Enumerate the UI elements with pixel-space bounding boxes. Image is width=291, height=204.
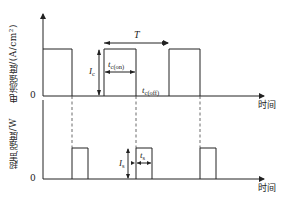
top-x-axis-label: 时间 (258, 101, 276, 110)
on-time-label: tc(on) (108, 60, 124, 71)
bottom-plot (43, 100, 264, 179)
period-label: T (134, 30, 140, 40)
current-pulse-1 (43, 49, 72, 96)
ultrasound-pulse-1 (72, 148, 88, 179)
pulse-timing-diagram (0, 0, 291, 204)
bottom-zero-label: 0 (30, 174, 36, 183)
ultrasound-amplitude-label: Is (119, 159, 125, 170)
bottom-y-axis-label: 超声强度/W (6, 118, 19, 169)
current-pulse-3 (169, 49, 200, 96)
top-zero-label: 0 (30, 91, 36, 100)
off-time-label: tc(off) (142, 86, 159, 97)
bottom-x-axis-label: 时间 (258, 184, 276, 193)
top-plot (43, 14, 264, 96)
current-amplitude-label: Ic (89, 67, 95, 78)
ultrasound-pulse-3 (200, 148, 216, 179)
sync-dashed-lines (72, 96, 200, 148)
ultrasound-on-time-label: ts (140, 151, 145, 162)
top-y-axis-label: 电流强度/(A/cm²) (6, 24, 19, 103)
